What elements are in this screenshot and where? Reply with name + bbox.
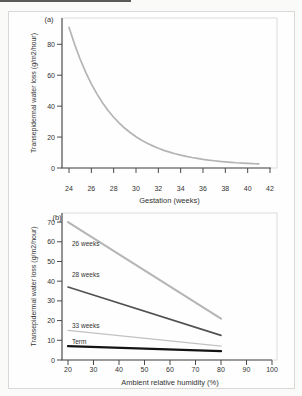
y-axis-title: Transepidermal water loss (g/m2/hour) [30, 227, 38, 347]
y-tick-label: 20 [47, 134, 55, 141]
x-tick-label: 30 [90, 366, 98, 373]
x-tick-label: 34 [177, 185, 185, 192]
series-line-tewl-vs-gestation [69, 27, 259, 164]
series-line-term [68, 346, 221, 351]
x-tick-label: 24 [65, 185, 73, 192]
figure-page: 24262830323436384042020406080Gestation (… [0, 0, 302, 396]
panel-label--b-: (b) [52, 213, 62, 222]
x-tick-label: 40 [115, 366, 123, 373]
x-axis-title: Ambient relative humidity (%) [121, 378, 219, 387]
x-tick-label: 100 [266, 366, 278, 373]
x-tick-label: 38 [221, 185, 229, 192]
y-tick-label: 60 [47, 72, 55, 79]
y-tick-label: 0 [51, 165, 55, 172]
x-tick-label: 40 [244, 185, 252, 192]
series-label-28-weeks: 28 weeks [72, 271, 100, 278]
y-axis-title: Transepidermal water loss (g/m2/hour) [30, 33, 38, 153]
x-tick-label: 42 [266, 185, 274, 192]
x-tick-label: 80 [217, 366, 225, 373]
y-tick-label: 30 [47, 297, 55, 304]
y-tick-label: 40 [47, 103, 55, 110]
y-tick-label: 80 [47, 41, 55, 48]
x-tick-label: 36 [199, 185, 207, 192]
x-tick-label: 70 [192, 366, 200, 373]
series-label-term: Term [72, 338, 86, 345]
series-label-33-weeks: 33 weeks [72, 322, 100, 329]
y-tick-label: 60 [47, 238, 55, 245]
axes--a- [62, 18, 271, 168]
x-tick-label: 32 [154, 185, 162, 192]
x-tick-label: 90 [243, 366, 251, 373]
x-tick-label: 30 [132, 185, 140, 192]
y-tick-label: 40 [47, 278, 55, 285]
plot-frame--a- [62, 18, 277, 168]
y-tick-label: 20 [47, 317, 55, 324]
x-tick-label: 26 [87, 185, 95, 192]
x-tick-label: 28 [110, 185, 118, 192]
x-tick-label: 60 [166, 366, 174, 373]
x-tick-label: 20 [64, 366, 72, 373]
y-tick-label: 0 [51, 357, 55, 364]
y-tick-label: 50 [47, 258, 55, 265]
series-label-26-weeks: 26 weeks [72, 240, 100, 247]
x-tick-label: 50 [141, 366, 149, 373]
panel-label--a-: (a) [44, 15, 54, 24]
axes--b- [62, 213, 272, 360]
y-tick-label: 10 [47, 337, 55, 344]
x-axis-title: Gestation (weeks) [139, 196, 200, 205]
two-panel-chart-svg: 24262830323436384042020406080Gestation (… [0, 0, 302, 396]
series-line-33-weeks [68, 330, 221, 346]
